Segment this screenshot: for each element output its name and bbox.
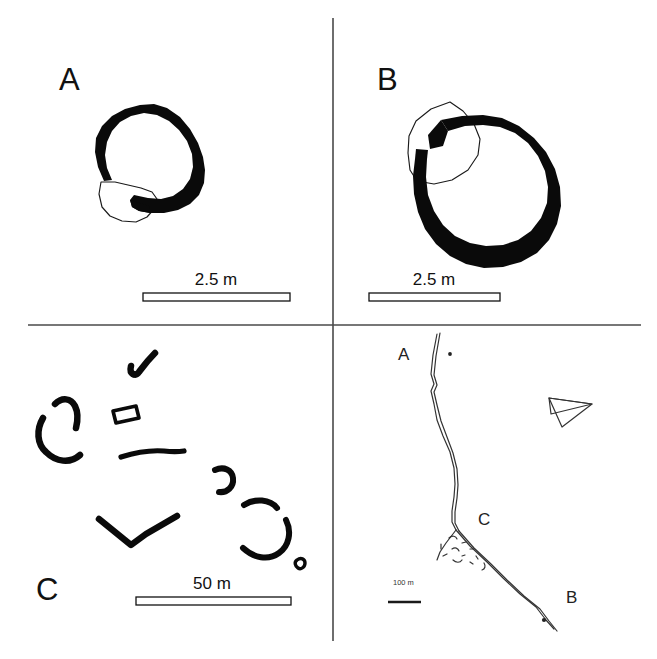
panel-c-scalebar-bar — [136, 597, 291, 605]
panel-b-scale-label: 2.5 m — [413, 270, 456, 289]
fragment-arc-upper-left — [55, 399, 77, 428]
fragment-arc-right-lower — [243, 520, 289, 558]
map-site-dot-b — [542, 618, 546, 622]
panel-a-scalebar: 2.5 m — [143, 270, 290, 301]
map-site-label-b: B — [566, 588, 577, 607]
map-scatter-mark-6 — [443, 554, 447, 556]
panel-c-scalebar: 50 m — [136, 574, 291, 605]
north-arrow-icon — [549, 398, 592, 427]
panel-a-letter: A — [59, 62, 80, 97]
panel-c: C — [36, 353, 305, 607]
fragment-hook-top-tail — [131, 366, 133, 374]
panel-c-wall-fragments — [38, 353, 305, 569]
fragment-rectangle-structure — [113, 406, 139, 423]
map-scale-label: 100 m — [393, 578, 414, 587]
map-site-label-a: A — [398, 345, 410, 364]
panel-b-wall-stub-lower — [415, 149, 428, 159]
map-scatter-mark-10 — [470, 562, 473, 564]
panel-b-scalebar: 2.5 m — [369, 270, 500, 301]
fragment-hook-top — [133, 353, 155, 375]
fragment-arc-right-upper — [244, 500, 277, 508]
fragment-line-central — [121, 451, 184, 457]
map-scatter-mark-9 — [453, 560, 462, 562]
map-scatter-mark-1 — [449, 536, 457, 539]
map-scatter-mark-11 — [482, 563, 485, 570]
fragment-tiny-ring — [295, 559, 305, 569]
map-site-label-c: C — [478, 510, 490, 529]
map-scatter-mark-8 — [476, 556, 478, 559]
map-scatter-mark-7 — [462, 555, 465, 556]
panel-a-scale-label: 2.5 m — [195, 270, 238, 289]
panel-b-letter: B — [377, 62, 398, 97]
map-site-dot-a — [448, 352, 452, 356]
fragment-arc-small-right — [215, 468, 233, 492]
panel-a-enclosure-wall — [95, 104, 205, 213]
panel-a-scalebar-bar — [143, 293, 290, 301]
map-scalebar: 100 m — [388, 578, 421, 602]
panel-b-scalebar-bar — [369, 293, 500, 301]
map-scatter-mark-5 — [452, 548, 459, 551]
panel-dividers — [28, 18, 641, 641]
archaeology-figure: A 2.5 m B 2.5 m — [0, 0, 657, 659]
panel-c-letter: C — [36, 572, 58, 607]
fragment-v-shape — [99, 516, 177, 545]
map-scatter-mark-2 — [462, 542, 466, 543]
map-valley-line-east — [434, 333, 459, 531]
panel-location-map: A C B 100 m — [388, 333, 592, 631]
panel-c-scale-label: 50 m — [193, 574, 231, 593]
panel-a: A 2.5 m — [59, 62, 290, 301]
map-spur-west — [437, 530, 456, 560]
panel-b: B 2.5 m — [369, 62, 561, 301]
